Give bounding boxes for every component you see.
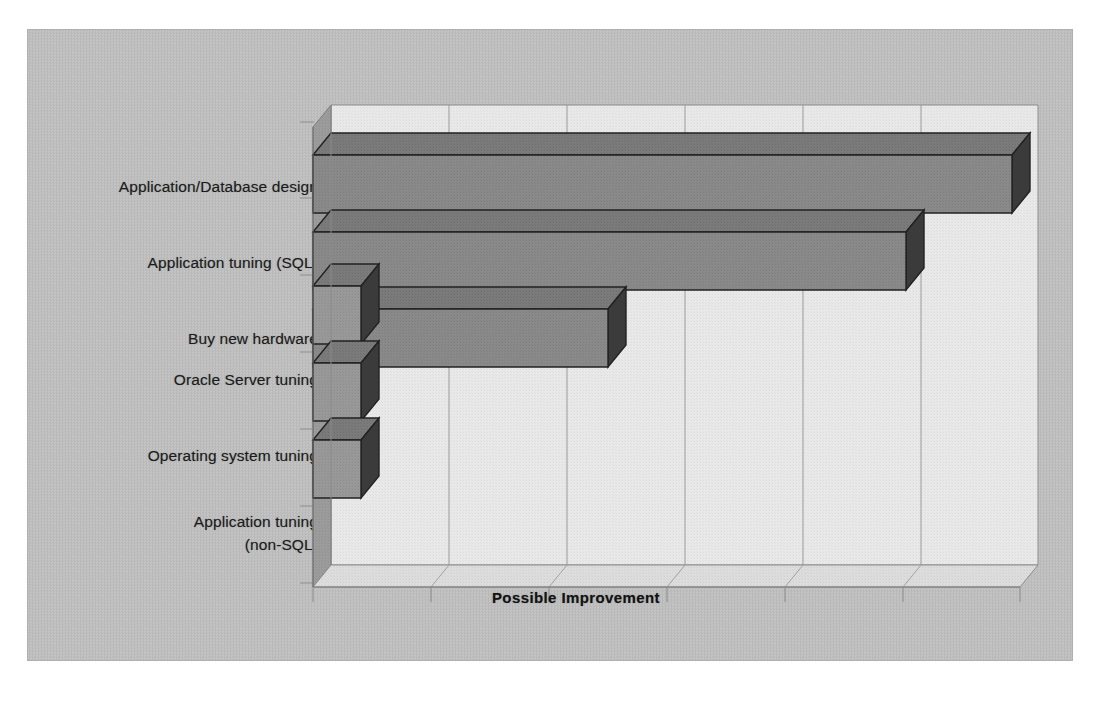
chart-panel: Application/Database design Application …	[28, 30, 1072, 660]
bar-operating-system-tuning	[313, 341, 379, 421]
bar-application-tuning-sql	[313, 210, 924, 290]
bar-oracle-server-tuning	[313, 264, 379, 344]
bar-application-tuning-non-sql	[313, 418, 379, 498]
plot-area	[28, 30, 1072, 660]
scanned-page: Application/Database design Application …	[0, 0, 1095, 709]
y-axis-ticks	[300, 122, 314, 583]
bar-application-database-design	[313, 133, 1030, 213]
x-axis-title-text: Possible Improvement	[492, 589, 660, 606]
x-axis-title: Possible Improvement	[28, 589, 1072, 606]
floor-plane	[313, 565, 1038, 587]
